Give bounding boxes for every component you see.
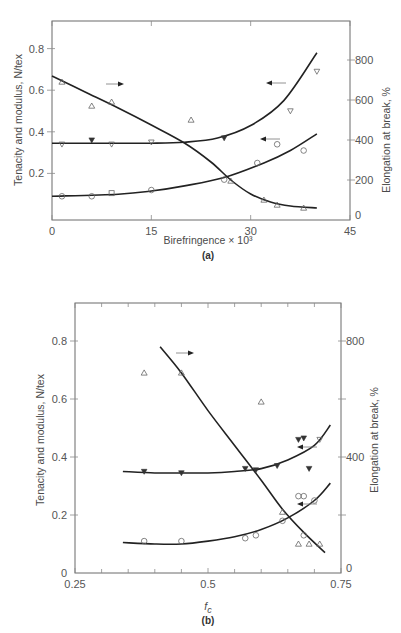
y-left-tick-label: 0	[61, 567, 67, 579]
y-right-tick-label: 400	[355, 134, 373, 146]
y-right-tick-label: 400	[346, 451, 364, 463]
y-axis-title-left-a: Tenacity and modulus, N/tex	[12, 53, 24, 186]
x-tick-label: 0.75	[330, 578, 351, 590]
panel-label-a: (a)	[202, 250, 214, 261]
y-left-tick-label: 0.6	[52, 393, 67, 405]
y-right-tick-label: 800	[346, 335, 364, 347]
panel-label-b: (b)	[202, 615, 215, 626]
fit-curve	[52, 53, 317, 144]
fit-curve	[123, 483, 330, 544]
y-left-tick-label: 0.4	[29, 126, 44, 138]
triangle-down-marker	[314, 69, 320, 74]
plot-frame-a	[52, 21, 350, 220]
circle-marker	[301, 493, 307, 499]
circle-marker	[301, 148, 307, 154]
filled-triangle-down-marker	[274, 464, 280, 469]
triangle-down-marker	[288, 109, 294, 114]
data-markers-a	[59, 69, 320, 210]
filled-triangle-down-marker	[296, 437, 302, 442]
y-right-tick-label: 200	[355, 174, 373, 186]
y-left-tick-label: 0.8	[52, 335, 67, 347]
triangle-up-marker	[109, 99, 115, 104]
y-right-tick-label: 800	[355, 54, 373, 66]
plot-frame	[52, 21, 350, 220]
fit-curves-b	[123, 347, 330, 553]
arrow-right-icon	[118, 82, 124, 87]
y-left-tick-label: 0.2	[52, 509, 67, 521]
axis-arrows-a	[106, 81, 286, 142]
circle-marker	[296, 493, 302, 499]
chart-panel-a: 01530450.20.40.60.80200400600800 Birefri…	[12, 21, 392, 261]
circle-marker	[89, 193, 95, 199]
arrow-left-icon	[297, 445, 303, 450]
arrow-left-icon	[260, 137, 266, 142]
chart-panel-b: 0.250.50.7500.20.40.60.80400800 fc Tenac…	[34, 303, 380, 626]
arrow-left-icon	[266, 81, 272, 86]
triangle-up-marker	[258, 399, 264, 404]
circle-marker	[242, 535, 248, 541]
fit-curves-a	[52, 53, 317, 208]
triangle-up-marker	[306, 541, 312, 546]
y-left-tick-label: 0.8	[29, 43, 44, 55]
x-tick-label: 0	[49, 225, 55, 237]
data-markers-b	[141, 370, 323, 546]
x-tick-label: 15	[145, 225, 157, 237]
arrow-right-icon	[188, 351, 194, 356]
filled-triangle-down-marker	[89, 138, 95, 143]
triangle-up-marker	[188, 117, 194, 122]
axis-ticks-a: 01530450.20.40.60.80200400600800	[29, 21, 374, 237]
filled-triangle-down-marker	[306, 466, 312, 471]
x-tick-label: 45	[344, 225, 356, 237]
y-axis-title-right-b: Elongation at break, %	[368, 387, 380, 493]
circle-marker	[274, 141, 280, 147]
y-axis-title-right-a: Elongation at break, %	[380, 87, 392, 193]
y-left-tick-label: 0.2	[29, 167, 44, 179]
circle-marker	[253, 533, 259, 539]
fit-curve	[160, 347, 325, 553]
triangle-up-marker	[295, 541, 301, 546]
y-right-tick-label: 600	[355, 94, 373, 106]
circle-marker	[179, 538, 185, 544]
x-tick-label: 0.25	[64, 578, 85, 590]
figure: 01530450.20.40.60.80200400600800 Birefri…	[0, 0, 401, 633]
triangle-up-marker	[89, 103, 95, 108]
triangle-up-marker	[317, 541, 323, 546]
fit-curve	[123, 425, 330, 473]
axis-arrows-b	[176, 351, 317, 507]
arrow-left-icon	[297, 502, 303, 507]
y-axis-title-left-b: Tenacity and modulus, N/tex	[34, 373, 46, 506]
y-left-tick-label: 0.6	[29, 84, 44, 96]
y-right-tick-label: 0	[346, 562, 352, 574]
y-left-tick-label: 0.4	[52, 451, 67, 463]
triangle-up-marker	[141, 370, 147, 375]
filled-triangle-down-marker	[221, 136, 227, 141]
filled-triangle-down-marker	[301, 436, 307, 441]
y-right-tick-label: 0	[355, 209, 361, 221]
x-tick-label: 0.5	[200, 578, 215, 590]
axis-ticks-b: 0.250.50.7500.20.40.60.80400800	[52, 303, 365, 590]
x-axis-title-a: Birefringence × 10³	[163, 234, 253, 246]
x-axis-title-b: fc	[204, 600, 212, 615]
